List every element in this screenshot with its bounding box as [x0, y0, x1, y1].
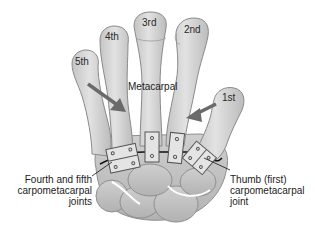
callout-fourth-fifth-cmc: Fourth and fifth carpometacarpal joints — [10, 174, 92, 207]
carpometacarpal-diagram: 5th 4th 3rd 2nd 1st Metacarpal Fourth an… — [0, 0, 315, 234]
hinge-3rd — [145, 132, 159, 162]
label-metacarpal: Metacarpal — [128, 81, 177, 92]
hinge-2nd — [167, 132, 184, 163]
label-4th: 4th — [105, 31, 119, 42]
label-3rd: 3rd — [142, 17, 156, 28]
callout-left-line3: joints — [10, 196, 92, 207]
callout-left-line2: carpometacarpal — [10, 185, 92, 196]
callout-right-line3: joint — [230, 196, 304, 207]
callout-right-line2: carpometacarpal — [230, 185, 304, 196]
callout-right-line1: Thumb (first) — [230, 174, 304, 185]
metacarpal-3rd — [134, 12, 166, 146]
callout-thumb-cmc: Thumb (first) carpometacarpal joint — [230, 174, 304, 207]
label-5th: 5th — [75, 56, 89, 67]
label-1st: 1st — [222, 92, 235, 103]
callout-left-line1: Fourth and fifth — [10, 174, 92, 185]
label-2nd: 2nd — [184, 24, 201, 35]
